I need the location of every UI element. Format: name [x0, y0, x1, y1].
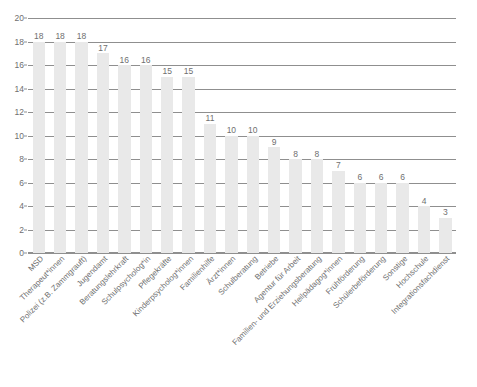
bar-value-label: 6: [379, 173, 384, 182]
bar-cell: 18: [28, 18, 49, 253]
y-tick-label: 0: [19, 249, 24, 258]
y-tick-mark: [24, 182, 27, 183]
bar-cell: 8: [285, 18, 306, 253]
bar-value-label: 3: [443, 208, 448, 217]
x-axis-labels: MSDTherapeut*innenPolizei (z.B. Zammgrau…: [28, 255, 456, 365]
bar-value-label: 6: [357, 173, 362, 182]
y-tick-label: 12: [15, 108, 24, 117]
y-tick-label: 6: [19, 178, 24, 187]
bar-cell: 18: [49, 18, 70, 253]
bar-value-label: 8: [293, 150, 298, 159]
y-tick-label: 4: [19, 202, 24, 211]
bar-cell: 16: [135, 18, 156, 253]
bar-cell: 18: [71, 18, 92, 253]
y-tick-label: 8: [19, 155, 24, 164]
bar[interactable]: 18: [54, 42, 66, 254]
bar-cell: 6: [392, 18, 413, 253]
bar-value-label: 17: [98, 44, 107, 53]
bar[interactable]: 18: [75, 42, 87, 254]
bar-value-label: 15: [162, 67, 171, 76]
bar-series: 1818181716161515111010988766643: [28, 18, 456, 253]
bar-value-label: 8: [315, 150, 320, 159]
y-tick-mark: [24, 18, 27, 19]
bar-value-label: 16: [141, 56, 150, 65]
plot-area: 02468101214161820 1818181716161515111010…: [28, 18, 456, 253]
y-tick-label: 16: [15, 61, 24, 70]
bar-chart: 02468101214161820 1818181716161515111010…: [0, 0, 477, 387]
bar-value-label: 18: [34, 32, 43, 41]
bar-cell: 9: [263, 18, 284, 253]
y-tick-mark: [24, 112, 27, 113]
y-tick-label: 20: [15, 14, 24, 23]
bar-value-label: 16: [120, 56, 129, 65]
bar-value-label: 15: [184, 67, 193, 76]
y-tick-label: 2: [19, 225, 24, 234]
bar-cell: 3: [435, 18, 456, 253]
y-tick-mark: [24, 159, 27, 160]
bar-value-label: 9: [272, 138, 277, 147]
y-tick-mark: [24, 135, 27, 136]
y-tick-mark: [24, 41, 27, 42]
bar-value-label: 10: [248, 126, 257, 135]
bar-value-label: 7: [336, 161, 341, 170]
bar-cell: 8: [306, 18, 327, 253]
y-tick-mark: [24, 65, 27, 66]
bar-value-label: 10: [227, 126, 236, 135]
x-label-cell: Integrationsfachdienst: [435, 255, 456, 365]
y-tick-mark: [24, 206, 27, 207]
bar-value-label: 11: [206, 114, 215, 123]
bar-value-label: 4: [422, 197, 427, 206]
y-tick-mark: [24, 88, 27, 89]
bar-cell: 10: [242, 18, 263, 253]
y-tick-mark: [24, 253, 27, 254]
bar-cell: 11: [199, 18, 220, 253]
y-tick-mark: [24, 229, 27, 230]
bar-value-label: 18: [77, 32, 86, 41]
bar[interactable]: 16: [140, 65, 152, 253]
y-tick-label: 18: [15, 37, 24, 46]
bar[interactable]: 18: [33, 42, 45, 254]
y-tick-label: 10: [15, 131, 24, 140]
y-tick-label: 14: [15, 84, 24, 93]
bar-value-label: 18: [55, 32, 64, 41]
